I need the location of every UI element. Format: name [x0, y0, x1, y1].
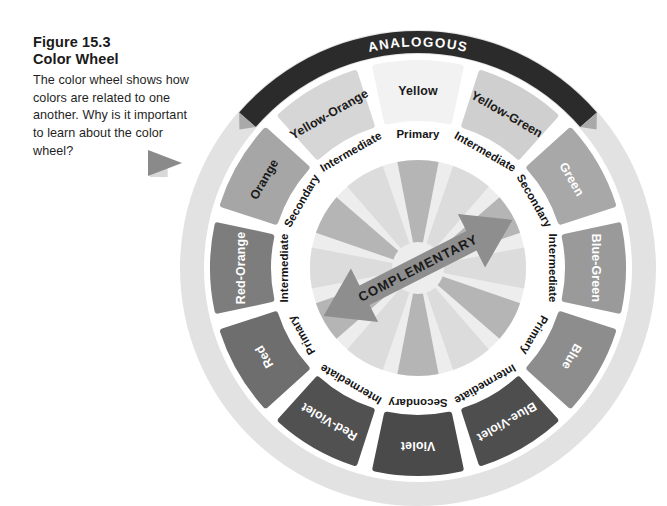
caption-pointer-group — [148, 150, 182, 177]
ring-label: Intermediate — [547, 234, 559, 303]
color-wheel-diagram: PrimaryIntermediateSecondaryIntermediate… — [0, 0, 667, 506]
ring-label: Secondary — [388, 397, 448, 409]
ring-label: Primary — [396, 128, 440, 140]
segment-label: Red-Orange — [234, 232, 248, 304]
segment-label: Blue-Green — [589, 234, 603, 302]
segment-label: Yellow — [398, 84, 438, 98]
segment-label: Violet — [401, 439, 435, 453]
ring-label: Intermediate — [278, 234, 290, 303]
